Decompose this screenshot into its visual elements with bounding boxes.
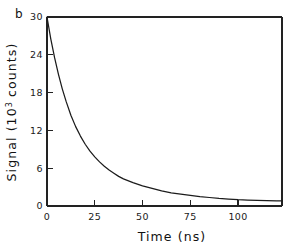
x-axis-ticks [47, 200, 238, 206]
x-tick-label: 25 [88, 211, 101, 222]
x-axis-title: Time (ns) [137, 229, 207, 244]
panel-label: b [15, 7, 23, 21]
y-tick-label: 18 [30, 87, 43, 98]
y-axis-title-tail: counts) [4, 43, 19, 102]
decay-chart: 0612182430 0255075100 b Time (ns) Signal… [0, 0, 297, 248]
y-tick-label: 0 [37, 200, 43, 211]
decay-curve [47, 17, 282, 201]
y-tick-label: 24 [30, 49, 43, 60]
x-tick-label: 75 [184, 211, 197, 222]
axes-frame [47, 17, 282, 206]
y-axis-title-text: Signal (103 counts) [4, 43, 19, 182]
x-tick-label: 50 [136, 211, 149, 222]
y-axis-tick-labels: 0612182430 [30, 11, 43, 211]
y-tick-label: 30 [30, 11, 43, 22]
x-tick-label: 0 [44, 211, 50, 222]
y-tick-label: 12 [30, 125, 43, 136]
x-axis-tick-labels: 0255075100 [44, 211, 248, 222]
y-axis-title: Signal (103 counts) [4, 43, 19, 182]
x-tick-label: 100 [228, 211, 247, 222]
figure-panel-b: 0612182430 0255075100 b Time (ns) Signal… [0, 0, 297, 248]
y-axis-title-base: Signal (10 [4, 107, 19, 181]
y-tick-label: 6 [37, 163, 43, 174]
